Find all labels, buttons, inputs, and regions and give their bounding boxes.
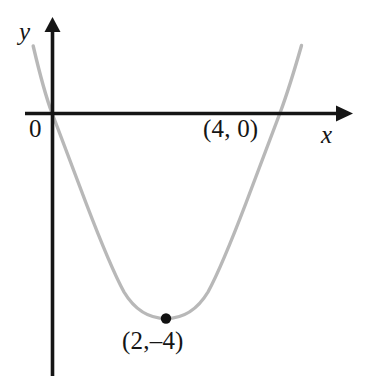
origin-label: 0 [29,116,42,141]
plot-canvas [0,0,373,387]
vertex-point-marker [161,313,171,323]
parabola-curve [33,46,301,319]
y-axis-arrowhead [45,17,61,32]
y-axis-label: y [19,19,30,44]
x-intercept-label: (4, 0) [203,116,258,141]
parabola-figure: y x 0 (4, 0) (2,–4) [0,0,373,387]
vertex-label: (2,–4) [122,328,184,353]
x-axis-label: x [321,122,332,147]
x-axis-arrowhead [336,106,353,122]
